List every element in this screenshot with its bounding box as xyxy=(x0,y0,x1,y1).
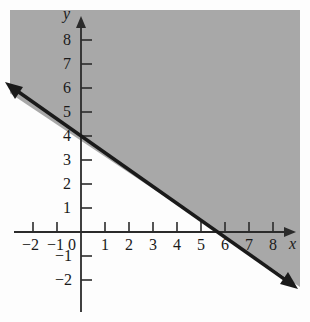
x-tick-label-5: 5 xyxy=(197,237,205,253)
x-tick-label-7: 7 xyxy=(245,237,253,253)
y-tick-label-5: 5 xyxy=(63,104,71,120)
x-axis-label: x xyxy=(289,236,296,252)
y-tick-label-1: 1 xyxy=(63,200,71,216)
y-tick-label--1: −1 xyxy=(55,248,72,264)
y-tick-label-7: 7 xyxy=(63,56,71,72)
x-tick-label-8: 8 xyxy=(269,237,277,253)
x-tick-label-2: 2 xyxy=(125,237,133,253)
x-tick-label-3: 3 xyxy=(149,237,157,253)
y-tick-label-8: 8 xyxy=(63,32,71,48)
y-tick-label-4: 4 xyxy=(63,128,71,144)
graph-canvas xyxy=(0,0,310,322)
x-tick-label-4: 4 xyxy=(173,237,181,253)
x-tick-label-1: 1 xyxy=(101,237,109,253)
y-tick-label-3: 3 xyxy=(63,152,71,168)
y-tick-label--2: −2 xyxy=(55,272,72,288)
y-tick-label-2: 2 xyxy=(63,176,71,192)
y-tick-label-6: 6 xyxy=(63,80,71,96)
x-tick-label-6: 6 xyxy=(221,237,229,253)
x-tick-label--2: −2 xyxy=(22,237,39,253)
inequality-graph-figure: y x 0 −2 −1 1 2 3 4 5 6 7 8 8 7 6 5 4 3 … xyxy=(0,0,310,322)
y-axis-label: y xyxy=(63,6,70,22)
